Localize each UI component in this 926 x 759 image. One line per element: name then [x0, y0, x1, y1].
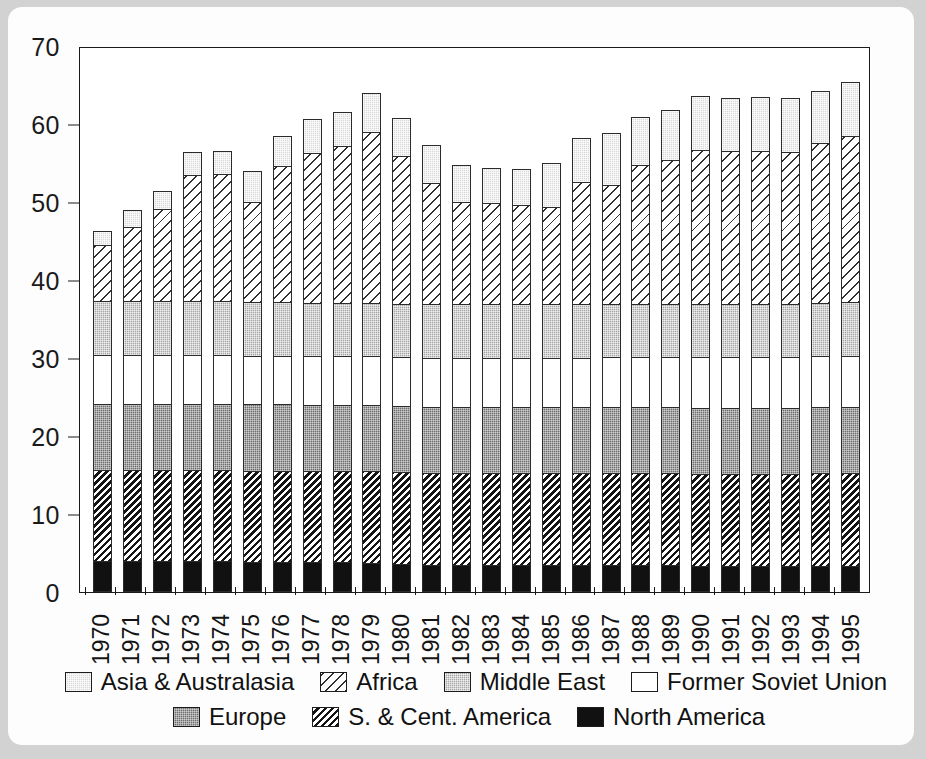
bar-segment-s-and-cent-america-1974[interactable]	[213, 470, 232, 562]
bar-segment-north-america-1995[interactable]	[841, 566, 860, 592]
bar-segment-africa-1976[interactable]	[273, 166, 292, 303]
bar-segment-former-soviet-union-1984[interactable]	[512, 358, 531, 408]
bar-segment-former-soviet-union-1975[interactable]	[243, 356, 262, 406]
stacked-bar-1976[interactable]	[273, 137, 292, 592]
bar-segment-africa-1975[interactable]	[243, 202, 262, 303]
bar-segment-s-and-cent-america-1979[interactable]	[362, 471, 381, 564]
bar-segment-europe-1989[interactable]	[661, 407, 680, 474]
bar-segment-s-and-cent-america-1971[interactable]	[123, 470, 142, 562]
bar-segment-africa-1979[interactable]	[362, 132, 381, 304]
bar-segment-africa-1985[interactable]	[542, 207, 561, 305]
bar-segment-north-america-1986[interactable]	[572, 565, 591, 592]
stacked-bar-1977[interactable]	[303, 120, 322, 592]
bar-segment-asia-australasia-1971[interactable]	[123, 210, 142, 227]
bar-segment-s-and-cent-america-1973[interactable]	[183, 470, 202, 562]
bar-segment-africa-1980[interactable]	[392, 156, 411, 304]
bar-segment-africa-1971[interactable]	[123, 227, 142, 303]
bar-segment-africa-1977[interactable]	[303, 153, 322, 304]
bar-segment-africa-1994[interactable]	[811, 143, 830, 304]
bar-segment-north-america-1991[interactable]	[721, 566, 740, 592]
bar-segment-north-america-1973[interactable]	[183, 561, 202, 592]
bar-segment-former-soviet-union-1995[interactable]	[841, 356, 860, 408]
stacked-bar-1987[interactable]	[602, 134, 621, 592]
bar-segment-africa-1973[interactable]	[183, 175, 202, 302]
bar-segment-europe-1984[interactable]	[512, 407, 531, 474]
bar-segment-europe-1983[interactable]	[482, 407, 501, 474]
bar-segment-middle-east-1987[interactable]	[602, 304, 621, 359]
bar-segment-north-america-1972[interactable]	[153, 561, 172, 592]
bar-segment-s-and-cent-america-1980[interactable]	[392, 472, 411, 565]
bar-segment-asia-australasia-1983[interactable]	[482, 168, 501, 204]
bar-segment-middle-east-1977[interactable]	[303, 303, 322, 358]
bar-segment-former-soviet-union-1994[interactable]	[811, 356, 830, 407]
bar-segment-asia-australasia-1979[interactable]	[362, 93, 381, 134]
stacked-bar-1973[interactable]	[183, 153, 202, 592]
bar-segment-former-soviet-union-1990[interactable]	[691, 357, 710, 408]
bar-segment-north-america-1971[interactable]	[123, 561, 142, 592]
bar-segment-asia-australasia-1987[interactable]	[602, 133, 621, 186]
bar-segment-europe-1976[interactable]	[273, 404, 292, 471]
bar-segment-s-and-cent-america-1986[interactable]	[572, 473, 591, 567]
bar-segment-europe-1974[interactable]	[213, 404, 232, 471]
bar-segment-asia-australasia-1975[interactable]	[243, 171, 262, 202]
bar-segment-former-soviet-union-1982[interactable]	[452, 358, 471, 408]
bar-segment-s-and-cent-america-1995[interactable]	[841, 473, 860, 567]
bar-segment-asia-australasia-1976[interactable]	[273, 136, 292, 168]
bar-segment-asia-australasia-1989[interactable]	[661, 110, 680, 161]
bar-segment-north-america-1987[interactable]	[602, 565, 621, 592]
bar-segment-north-america-1992[interactable]	[751, 566, 770, 592]
bar-segment-middle-east-1983[interactable]	[482, 304, 501, 359]
bar-segment-africa-1995[interactable]	[841, 136, 860, 303]
bar-segment-former-soviet-union-1986[interactable]	[572, 358, 591, 408]
bar-segment-north-america-1994[interactable]	[811, 566, 830, 592]
bar-segment-north-america-1974[interactable]	[213, 561, 232, 592]
bar-segment-middle-east-1975[interactable]	[243, 302, 262, 357]
legend-item-s-and-cent-america[interactable]: S. & Cent. America	[312, 703, 551, 731]
bar-segment-s-and-cent-america-1977[interactable]	[303, 471, 322, 563]
legend-item-asia-australasia[interactable]: Asia & Australasia	[65, 668, 294, 696]
bar-segment-middle-east-1982[interactable]	[452, 304, 471, 359]
legend-item-africa[interactable]: Africa	[320, 668, 417, 696]
bar-segment-middle-east-1995[interactable]	[841, 302, 860, 357]
bar-segment-former-soviet-union-1977[interactable]	[303, 356, 322, 406]
stacked-bar-1970[interactable]	[93, 232, 112, 592]
bar-segment-europe-1979[interactable]	[362, 405, 381, 472]
legend-item-north-america[interactable]: North America	[577, 703, 765, 731]
bar-segment-former-soviet-union-1978[interactable]	[333, 356, 352, 406]
bar-segment-former-soviet-union-1981[interactable]	[422, 358, 441, 408]
bar-segment-north-america-1979[interactable]	[362, 563, 381, 592]
bar-segment-asia-australasia-1985[interactable]	[542, 163, 561, 208]
bar-segment-former-soviet-union-1988[interactable]	[631, 357, 650, 408]
bar-segment-asia-australasia-1970[interactable]	[93, 231, 112, 246]
bar-segment-middle-east-1994[interactable]	[811, 303, 830, 358]
bar-segment-europe-1988[interactable]	[631, 407, 650, 474]
stacked-bar-1992[interactable]	[751, 98, 770, 592]
bar-segment-north-america-1982[interactable]	[452, 565, 471, 592]
bar-segment-africa-1982[interactable]	[452, 202, 471, 305]
bar-segment-europe-1977[interactable]	[303, 405, 322, 472]
bar-segment-former-soviet-union-1970[interactable]	[93, 355, 112, 405]
bar-segment-north-america-1993[interactable]	[781, 566, 800, 592]
bar-segment-asia-australasia-1994[interactable]	[811, 91, 830, 144]
bar-segment-europe-1972[interactable]	[153, 404, 172, 471]
stacked-bar-1991[interactable]	[721, 99, 740, 592]
bar-segment-middle-east-1974[interactable]	[213, 301, 232, 356]
bar-segment-north-america-1989[interactable]	[661, 565, 680, 592]
bar-segment-europe-1992[interactable]	[751, 408, 770, 475]
bar-segment-africa-1978[interactable]	[333, 146, 352, 304]
stacked-bar-1972[interactable]	[153, 192, 172, 592]
bar-segment-s-and-cent-america-1972[interactable]	[153, 470, 172, 562]
bar-segment-s-and-cent-america-1988[interactable]	[631, 473, 650, 567]
bar-segment-europe-1990[interactable]	[691, 408, 710, 475]
bar-segment-middle-east-1990[interactable]	[691, 304, 710, 359]
bar-segment-former-soviet-union-1972[interactable]	[153, 355, 172, 405]
bar-segment-middle-east-1992[interactable]	[751, 304, 770, 359]
bar-segment-former-soviet-union-1980[interactable]	[392, 357, 411, 407]
bar-segment-europe-1980[interactable]	[392, 406, 411, 473]
bar-segment-middle-east-1986[interactable]	[572, 304, 591, 359]
bar-segment-middle-east-1979[interactable]	[362, 303, 381, 358]
bar-segment-africa-1970[interactable]	[93, 245, 112, 302]
stacked-bar-1981[interactable]	[422, 146, 441, 592]
bar-segment-europe-1986[interactable]	[572, 407, 591, 474]
bar-segment-s-and-cent-america-1982[interactable]	[452, 473, 471, 566]
